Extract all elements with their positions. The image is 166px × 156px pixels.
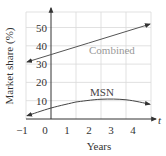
x-axis-label: Years	[87, 140, 112, 152]
series-line-msn	[27, 102, 76, 116]
x-tick-label: 2	[86, 124, 92, 136]
x-tick-label: 1	[64, 124, 70, 136]
y-tick-label: 50	[36, 22, 48, 34]
y-tick-label: 20	[36, 76, 48, 88]
x-axis-symbol: t	[158, 114, 162, 126]
x-tick-label: −1	[16, 124, 28, 136]
y-tick-label: 40	[36, 40, 48, 52]
y-tick-label: 30	[36, 58, 48, 70]
series-line-msn	[76, 99, 150, 104]
y-axis-label: Market share (%)	[3, 27, 16, 104]
x-tick-label: 3	[108, 124, 114, 136]
series-label-msn: MSN	[90, 86, 114, 98]
y-tick-label: 10	[36, 95, 48, 107]
series-label-combined: Combined	[89, 44, 135, 56]
x-tick-label: 0	[42, 124, 48, 136]
x-tick-label: 4	[130, 124, 136, 136]
market-share-chart: −1012341020304050 Years Market share (%)…	[0, 0, 166, 156]
series-line-combined	[89, 24, 150, 43]
